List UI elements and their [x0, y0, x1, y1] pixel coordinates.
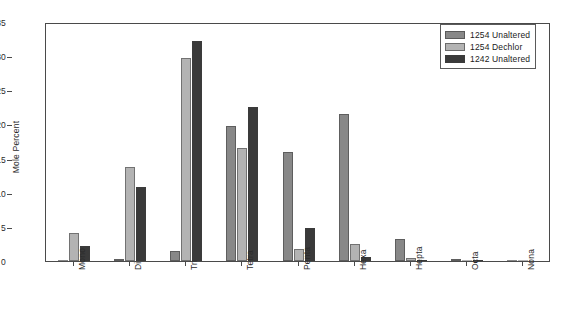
y-tick-mark: [7, 57, 12, 58]
bar-hexa-1: [339, 114, 349, 261]
legend-label: 1254 Unaltered: [470, 30, 530, 40]
bar-tri-1: [170, 251, 180, 261]
y-axis-title: Mole Percent: [11, 97, 21, 197]
legend-item: 1254 Dechlor: [445, 41, 530, 52]
x-tick-mark: [241, 262, 242, 266]
legend-label: 1254 Dechlor: [470, 42, 522, 52]
x-tick-label-mono: Mono: [77, 248, 87, 270]
x-tick-mark: [466, 262, 467, 266]
x-tick-mark: [73, 262, 74, 266]
y-tick-label: 15: [0, 155, 6, 165]
x-tick-mark: [522, 262, 523, 266]
bar-tetra-3: [248, 107, 258, 261]
y-tick-label: 20: [0, 120, 6, 130]
chart-legend: 1254 Unaltered1254 Dechlor1242 Unaltered: [440, 24, 536, 69]
x-tick-label-di: Di: [133, 262, 143, 270]
bar-tri-3: [192, 41, 202, 261]
y-tick-label: 30: [0, 52, 6, 62]
x-tick-mark: [410, 262, 411, 266]
y-tick-label: 35: [0, 18, 6, 28]
bar-mono-1: [58, 260, 68, 261]
bar-tetra-1: [226, 126, 236, 261]
y-tick-mark: [7, 194, 12, 195]
y-tick-mark: [7, 125, 12, 126]
bar-chart: Mole Percent 05101520253035 1254 Unalter…: [0, 0, 566, 309]
x-tick-mark: [185, 262, 186, 266]
x-tick-mark: [354, 262, 355, 266]
y-tick-mark: [7, 91, 12, 92]
y-tick-label: 25: [0, 86, 6, 96]
bar-penta-1: [283, 152, 293, 261]
legend-swatch-icon: [445, 31, 465, 39]
x-tick-label-hepta: Hepta: [414, 246, 424, 270]
legend-item: 1242 Unaltered: [445, 53, 530, 64]
y-tick-label: 10: [0, 189, 6, 199]
bar-di-3: [136, 187, 146, 261]
x-tick-mark: [129, 262, 130, 266]
bar-di-2: [125, 167, 135, 261]
x-tick-label-hexa: Hexa: [358, 249, 368, 270]
bar-tri-2: [181, 58, 191, 261]
legend-swatch-icon: [445, 55, 465, 63]
legend-swatch-icon: [445, 43, 465, 51]
y-axis: Mole Percent 05101520253035: [0, 0, 45, 285]
x-tick-label-nona: Nona: [526, 249, 536, 270]
bar-tetra-2: [237, 148, 247, 261]
x-tick-mark: [298, 262, 299, 266]
y-tick-label: 0: [0, 257, 6, 267]
bar-octa-1: [451, 259, 461, 261]
x-tick-label-tetra: Tetra: [245, 250, 255, 270]
legend-label: 1242 Unaltered: [470, 54, 530, 64]
legend-item: 1254 Unaltered: [445, 29, 530, 40]
x-tick-label-tri: Tri: [189, 260, 199, 270]
bar-nona-1: [507, 260, 517, 261]
bar-di-1: [114, 259, 124, 261]
x-tick-label-octa: Octa: [470, 251, 480, 270]
y-tick-mark: [7, 228, 12, 229]
y-tick-label: 5: [0, 223, 6, 233]
bar-hepta-1: [395, 239, 405, 261]
y-tick-mark: [7, 160, 12, 161]
x-tick-label-penta: Penta: [302, 247, 312, 270]
